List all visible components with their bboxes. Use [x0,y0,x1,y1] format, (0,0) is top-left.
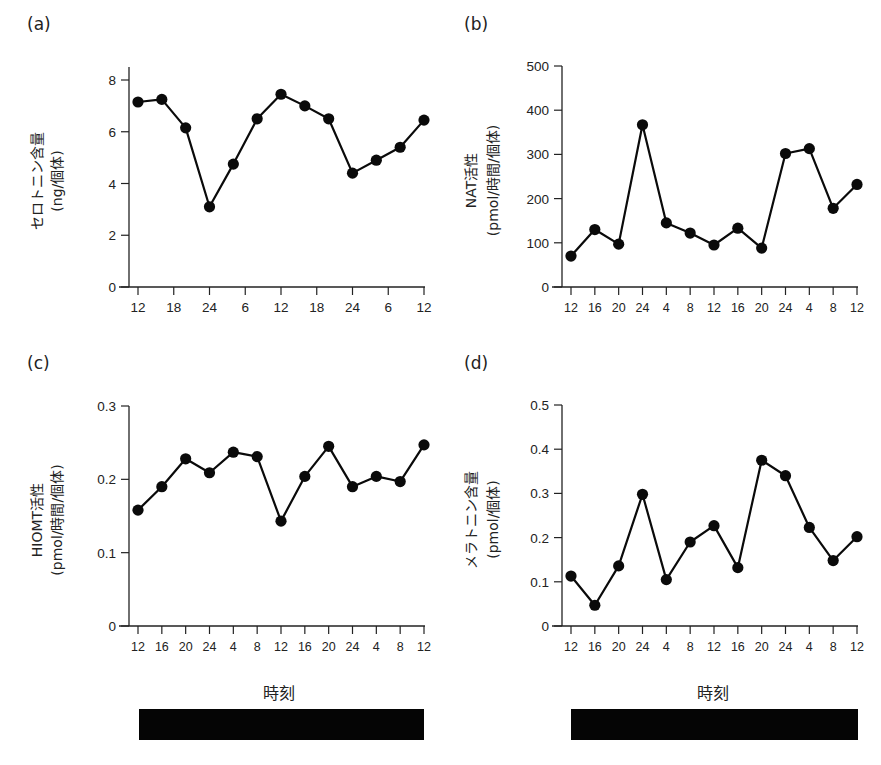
x-tick-label: 8 [830,640,837,654]
dark-period-bar-left [139,709,424,740]
y-tick-label: 0.1 [530,575,549,590]
data-point [804,522,815,533]
x-tick-label: 20 [612,640,626,654]
x-axis-label-right: 時刻 [697,680,729,704]
y-axis-label-unit: (pmol/個体) [485,480,501,559]
x-tick-label: 12 [707,640,721,654]
x-tick-label: 24 [636,640,650,654]
x-axis-label-left: 時刻 [263,680,295,704]
x-tick-label: 8 [687,640,694,654]
data-point [851,531,862,542]
data-point [637,489,648,500]
x-tick-label: 4 [663,640,670,654]
data-point [685,536,696,547]
x-tick-label: 4 [806,640,813,654]
y-tick-label: 0 [541,619,549,634]
dark-period-bar-right [571,709,858,740]
data-point [828,555,839,566]
y-axis-label-main: メラトニン含量 [463,471,479,569]
x-tick-label: 12 [564,640,578,654]
y-tick-label: 0.3 [530,486,549,501]
data-point [565,570,576,581]
data-point [661,574,672,585]
y-tick-label: 0.4 [530,442,549,457]
data-point [756,455,767,466]
data-point [613,560,624,571]
chart-d-melatonin: 00.10.20.30.40.51216202448121620244812メラ… [0,0,881,765]
x-tick-label: 24 [779,640,793,654]
data-point [589,600,600,611]
x-tick-label: 16 [588,640,602,654]
data-point [708,520,719,531]
data-line [571,460,857,605]
y-tick-label: 0.5 [530,398,549,413]
x-tick-label: 16 [731,640,745,654]
data-point [732,562,743,573]
x-tick-label: 20 [755,640,769,654]
data-point [780,470,791,481]
x-tick-label: 12 [850,640,864,654]
y-tick-label: 0.2 [530,531,549,546]
